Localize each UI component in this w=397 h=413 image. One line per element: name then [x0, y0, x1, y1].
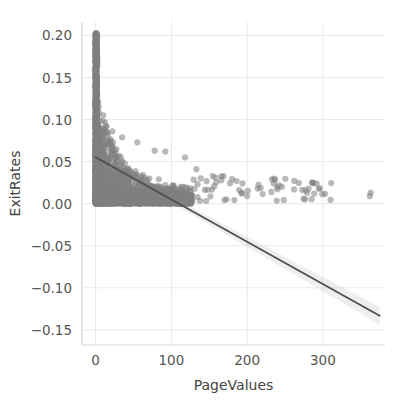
- x-tick-label: 100: [158, 352, 184, 368]
- y-tick-label: 0.20: [42, 27, 72, 43]
- y-tick-label: −0.15: [31, 322, 72, 338]
- chart-figure: 0100200300 0.200.150.100.050.00−0.05−0.1…: [0, 0, 397, 413]
- y-tick-label: 0.10: [42, 112, 72, 128]
- y-tick-label: 0.05: [42, 154, 72, 170]
- y-tick-label: −0.05: [31, 238, 72, 254]
- x-tick-label: 0: [91, 352, 100, 368]
- x-tick-label: 200: [234, 352, 260, 368]
- y-tick-label: −0.10: [31, 280, 72, 296]
- x-tick-label: 300: [310, 352, 336, 368]
- x-axis-title: PageValues: [194, 377, 274, 393]
- y-tick-label: 0.00: [42, 196, 72, 212]
- y-axis-title: ExitRates: [7, 151, 23, 217]
- scatter-plot-canvas: 0100200300 0.200.150.100.050.00−0.05−0.1…: [0, 0, 397, 413]
- y-tick-label: 0.15: [42, 70, 72, 86]
